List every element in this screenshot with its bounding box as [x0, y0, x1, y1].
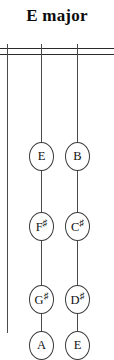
page-title: E major	[0, 6, 114, 26]
sharp-symbol: ♯	[43, 218, 48, 228]
note-marker[interactable]: F♯	[29, 212, 54, 241]
note-label: E	[38, 150, 46, 163]
note-label: C♯	[71, 219, 84, 234]
note-label: A	[37, 339, 46, 352]
note-marker[interactable]: D♯	[65, 285, 90, 314]
note-marker[interactable]: G♯	[29, 285, 54, 314]
note-marker[interactable]: E	[65, 331, 90, 360]
note-label: G♯	[35, 292, 49, 307]
note-marker[interactable]: E	[29, 142, 54, 171]
sharp-symbol: ♯	[80, 291, 85, 301]
note-label: E	[74, 339, 82, 352]
nut-line-top	[0, 48, 114, 49]
note-label: D♯	[71, 292, 85, 307]
note-marker[interactable]: B	[65, 142, 90, 171]
sharp-symbol: ♯	[44, 291, 49, 301]
note-label: B	[73, 150, 81, 163]
note-label: F♯	[36, 219, 48, 234]
note-marker[interactable]: A	[29, 331, 54, 360]
note-marker[interactable]: C♯	[65, 212, 90, 241]
fingerboard: EBF♯C♯G♯D♯AE	[0, 44, 114, 340]
sharp-symbol: ♯	[79, 218, 84, 228]
string-left	[7, 44, 8, 333]
nut-line-bottom	[0, 54, 114, 55]
